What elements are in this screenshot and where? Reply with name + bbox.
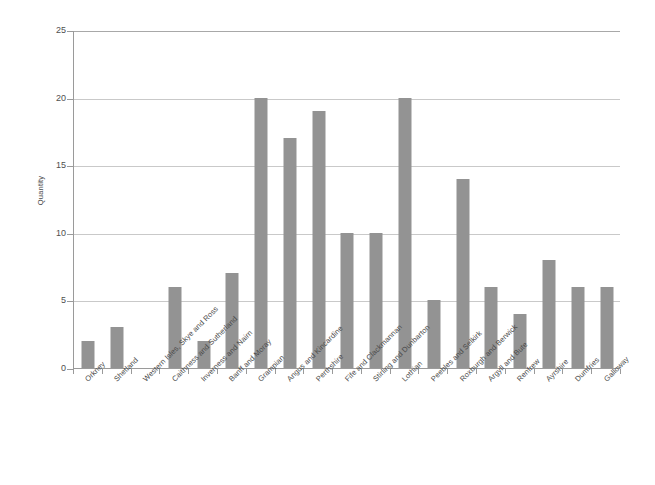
bar-slot (592, 31, 621, 368)
bar-slot (276, 31, 305, 368)
bar-slot (391, 31, 420, 368)
x-tick-mark (505, 369, 506, 374)
bar-slot (448, 31, 477, 368)
bar[interactable] (283, 138, 296, 368)
bar[interactable] (226, 273, 239, 368)
bar-slot (218, 31, 247, 368)
x-tick-mark (303, 369, 304, 374)
bar-slot (160, 31, 189, 368)
x-tick-mark (73, 369, 74, 374)
y-tick-label-25: 25 (40, 26, 66, 35)
bar-chart: Quantity 0510152025 OrkneyShetlandWester… (0, 0, 655, 485)
bar[interactable] (111, 327, 124, 368)
bar[interactable] (168, 287, 181, 368)
x-tick-mark (188, 369, 189, 374)
bar-slot (419, 31, 448, 368)
bar[interactable] (255, 98, 268, 368)
bar[interactable] (600, 287, 613, 368)
bar-slot (535, 31, 564, 368)
x-tick-mark (361, 369, 362, 374)
y-tick-label-10: 10 (40, 229, 66, 238)
x-tick-mark (131, 369, 132, 374)
bar[interactable] (514, 314, 527, 368)
bar-slot (563, 31, 592, 368)
bar-slot (74, 31, 103, 368)
x-tick-mark (275, 369, 276, 374)
x-tick-mark (447, 369, 448, 374)
x-tick-mark (246, 369, 247, 374)
x-tick-mark (418, 369, 419, 374)
bar[interactable] (197, 341, 210, 368)
bar[interactable] (341, 233, 354, 368)
bar[interactable] (543, 260, 556, 368)
bars-series (74, 31, 620, 368)
bar[interactable] (399, 98, 412, 368)
y-tick-label-5: 5 (40, 296, 66, 305)
plot-area (73, 31, 620, 369)
bar[interactable] (571, 287, 584, 368)
bar-slot (103, 31, 132, 368)
bar-slot (304, 31, 333, 368)
x-tick-mark (562, 369, 563, 374)
bar[interactable] (312, 111, 325, 368)
bar-slot (189, 31, 218, 368)
y-tick-label-15: 15 (40, 161, 66, 170)
x-tick-mark (591, 369, 592, 374)
bar-slot (477, 31, 506, 368)
bar[interactable] (370, 233, 383, 368)
x-tick-mark (476, 369, 477, 374)
y-tick-label-20: 20 (40, 94, 66, 103)
bar[interactable] (456, 179, 469, 368)
x-tick-mark (102, 369, 103, 374)
bar-slot (132, 31, 161, 368)
bar[interactable] (427, 300, 440, 368)
bar-slot (362, 31, 391, 368)
bar[interactable] (485, 287, 498, 368)
bar-slot (506, 31, 535, 368)
x-tick-mark (332, 369, 333, 374)
y-tick-label-0: 0 (40, 364, 66, 373)
bar-slot (247, 31, 276, 368)
x-tick-mark (159, 369, 160, 374)
x-tick-mark (620, 369, 621, 374)
bar-slot (333, 31, 362, 368)
x-tick-mark (534, 369, 535, 374)
bar[interactable] (82, 341, 95, 368)
x-tick-mark (390, 369, 391, 374)
x-tick-mark (217, 369, 218, 374)
